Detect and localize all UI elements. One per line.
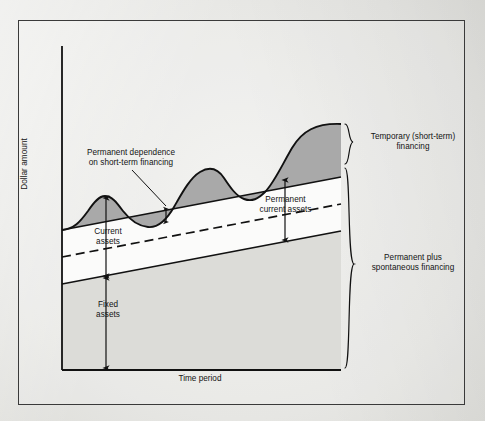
y-axis-title: Dollar amount [20,119,29,209]
permanent-dependence-leader-line [132,170,166,206]
annotation-permanent-current-assets: Permanent current assets [243,195,328,216]
temporary-financing-bracket [345,124,353,164]
annotation-temporary-financing: Temporary (short-term) financing [357,132,469,153]
x-axis-title: Time period [140,374,260,383]
annotation-current-assets: Current assets [83,227,133,248]
annotation-permanent-dependence: Permanent dependence on short-term finan… [62,148,200,169]
annotation-fixed-assets: Fixed assets [83,300,133,321]
figure-page: Dollar amount Time period Permanent depe… [0,0,485,421]
permanent-spontaneous-financing-bracket [345,168,354,368]
annotation-permanent-spontaneous-financing: Permanent plus spontaneous financing [357,253,469,274]
